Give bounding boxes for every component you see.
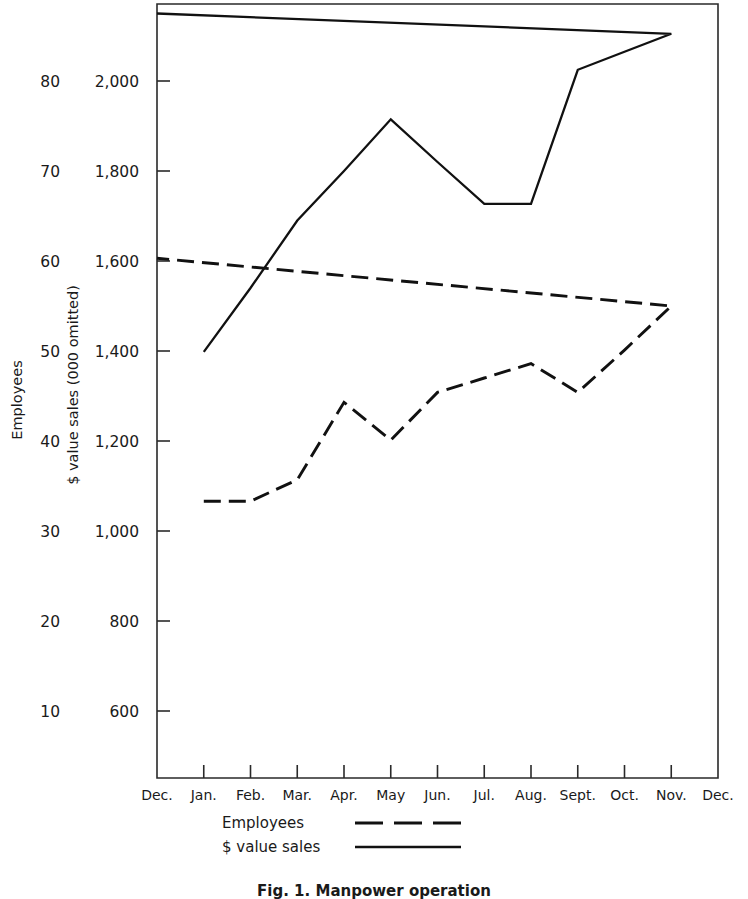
y-tick-label-employees: 50 bbox=[40, 343, 60, 361]
y-tick-label-sales: 600 bbox=[109, 703, 139, 721]
y-axis-inner-tick-labels: 6008001,0001,2001,4001,6001,8002,000 bbox=[95, 73, 139, 721]
x-tick-label: Apr. bbox=[330, 787, 357, 803]
x-tick-label: Dec. bbox=[141, 787, 173, 803]
x-tick-label: Jun. bbox=[423, 787, 450, 803]
y-tick-label-sales: 2,000 bbox=[95, 73, 139, 91]
y-tick-label-sales: 800 bbox=[109, 613, 139, 631]
y-tick-label-employees: 40 bbox=[40, 433, 60, 451]
y-tick-label-employees: 60 bbox=[40, 253, 60, 271]
x-tick-label: Jul. bbox=[473, 787, 495, 803]
series-line-employees bbox=[157, 258, 671, 501]
y-tick-label-employees: 80 bbox=[40, 73, 60, 91]
legend-label-employees: Employees bbox=[222, 814, 304, 832]
x-tick-label: Dec. bbox=[702, 787, 734, 803]
y-tick-label-sales: 1,400 bbox=[95, 343, 139, 361]
y-tick-label-sales: 1,800 bbox=[95, 163, 139, 181]
series-group bbox=[157, 14, 671, 502]
x-tick-label: Feb. bbox=[236, 787, 265, 803]
x-axis-tick-labels: Dec.Jan.Feb.Mar.Apr.MayJun.Jul.Aug.Sept.… bbox=[141, 787, 734, 803]
y-tick-label-employees: 30 bbox=[40, 523, 60, 541]
y-tick-label-employees: 70 bbox=[40, 163, 60, 181]
y-tick-label-sales: 1,000 bbox=[95, 523, 139, 541]
figure-container: 6008001,0001,2001,4001,6001,8002,000 102… bbox=[0, 0, 748, 899]
axis-title-employees: Employees bbox=[9, 360, 25, 439]
series-line-dollar-value-sales bbox=[157, 14, 671, 352]
y-tick-label-sales: 1,600 bbox=[95, 253, 139, 271]
y-tick-label-employees: 20 bbox=[40, 613, 60, 631]
y-tick-label-sales: 1,200 bbox=[95, 433, 139, 451]
chart-svg: 6008001,0001,2001,4001,6001,8002,000 102… bbox=[0, 0, 748, 899]
x-axis-ticks bbox=[204, 765, 672, 778]
chart-legend: Employees $ value sales bbox=[222, 814, 461, 856]
axis-title-sales: $ value sales (000 omitted) bbox=[65, 285, 81, 485]
x-tick-label: Aug. bbox=[515, 787, 547, 803]
x-tick-label: Nov. bbox=[656, 787, 687, 803]
figure-caption: Fig. 1. Manpower operation bbox=[257, 882, 491, 899]
x-tick-label: May bbox=[376, 787, 405, 803]
x-tick-label: Jan. bbox=[190, 787, 217, 803]
x-tick-label: Oct. bbox=[610, 787, 639, 803]
x-tick-label: Mar. bbox=[282, 787, 312, 803]
y-axis-outer-tick-labels: 1020304050607080 bbox=[40, 73, 60, 721]
y-tick-label-employees: 10 bbox=[40, 703, 60, 721]
legend-label-dollar-value-sales: $ value sales bbox=[222, 838, 320, 856]
y-axis-ticks bbox=[157, 81, 170, 711]
x-tick-label: Sept. bbox=[560, 787, 596, 803]
